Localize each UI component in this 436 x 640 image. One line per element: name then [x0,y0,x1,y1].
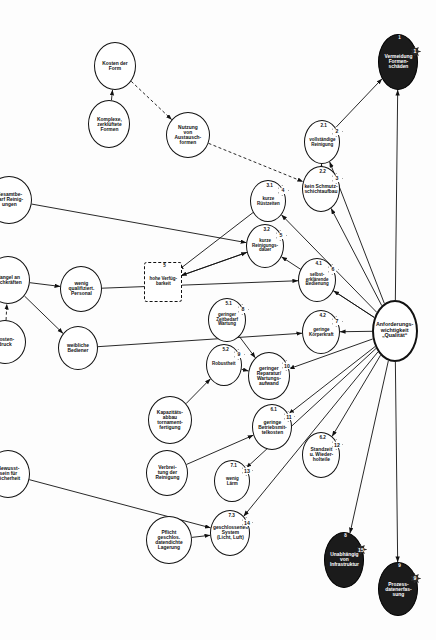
node-verbr: Verbrei- tung der Reinigung [146,450,188,496]
node-label-n71: wenig Lärm [226,476,239,485]
rank-badge-n71: 13 [242,465,253,476]
node-n1: 1Vermeidung Formen- schäden [378,34,418,90]
rank-badge-n22: 3 [332,173,343,184]
edge-mangel-to-weib [24,296,63,333]
rank-badge-n41: 6 [328,264,339,275]
node-label-weib: weibliche Bediener [67,343,89,353]
node-label-n5: hohe Verfüg- barkeit [149,277,177,286]
node-nutz: Nutzung von Austausch- formen [166,112,210,158]
node-index-n31: 3.1 [266,184,272,189]
node-label-kostd: Kosten- druck [0,337,14,347]
rank-badge-n9: 9 [410,573,421,584]
rank-badge-n1: 1 [410,46,421,57]
edge-root-to-n1 [395,90,397,300]
edge-root-to-n8 [350,361,388,534]
edge-weib-to-n42 [98,333,302,346]
rank-value: 5 [280,232,283,238]
rank-value: 9 [414,575,417,581]
edge-kapa-to-n52 [186,379,210,404]
edge-n31-to-n5 [178,213,253,271]
node-label-n22: kein Schmutz- schichtaufbau [304,184,337,194]
rank-badge-n61: 11 [284,411,295,422]
rank-value: 8 [242,306,245,312]
rank-value: 11 [287,413,292,419]
node-label-bewsi: Bewusst- sein für Sicherheit [0,466,20,481]
edge-wenigq-to-n41 [102,281,298,288]
node-label-n42: geringe Körperkraft [309,327,334,336]
rank-badge-n42: 7 [332,316,343,327]
node-label-n41: selbst- erklärende Bedienung [305,273,328,287]
node-index-n42: 4.2 [319,314,325,319]
node-label-n21: vollständige Reinigung [309,137,335,146]
edge-gesamt-to-n32 [32,204,247,243]
edge-kostd-to-mangel [6,304,7,320]
edge-n21-to-n1 [336,79,382,128]
rank-badge-n8: 15 [356,544,367,555]
edge-mangel-to-wenigq [30,283,60,287]
node-label-n61: geringe Betriebsmit- telkosten [258,419,287,434]
rank-badge-n21: 2 [332,126,343,137]
node-label-kompl: Komplexe, zerklüftete Formen [97,116,122,131]
node-kform: Kosten der Form [94,42,136,90]
node-kostd: Kosten- druck [0,320,26,364]
node-index-n62: 6.2 [319,436,325,441]
node-index-n8: 8 [344,534,347,539]
rank-value: 13 [245,468,251,474]
node-label-n51: geringer Zeitbedarf Wartung [216,313,238,327]
edge-root-to-n61 [289,347,376,415]
edge-nutz-to-n22 [209,143,303,181]
edge-root-to-n41 [334,291,375,318]
node-label-n10: geringer Reparatur/ Wartungs- aufwand [257,366,281,386]
node-index-n9: 9 [398,564,401,569]
node-index-n32: 3.2 [263,228,269,233]
node-index-n73: 7.3 [228,514,234,519]
node-label-kform: Kosten der Form [102,61,128,71]
rank-badge-n51: 8 [238,304,249,315]
rank-value: 2 [336,128,339,134]
node-wenigq: wenig qualifiziert. Personal [60,266,102,312]
rank-badge-n73: 14 [242,517,253,528]
edge-root-to-n9 [395,362,397,562]
rank-value: 9 [238,351,241,357]
edge-root-to-n62 [332,355,380,436]
node-index-n61: 6.1 [270,408,276,413]
node-n9: 9Prozess- datenerfas- sung [378,562,418,616]
node-index-n41: 4.1 [315,262,321,267]
edge-verbr-to-n61 [186,435,253,464]
node-mangel: Mangel an Fachkräften [0,256,30,304]
node-n5: 5hohe Verfüg- barkeit [144,262,182,302]
rank-badge-n31: 4 [278,185,289,196]
node-label-mangel: Mangel an Fachkräften [0,275,22,285]
node-index-n21: 2.1 [320,124,326,129]
node-n8: 8Unabhängig von Infrastruktur [324,532,364,588]
diagram-page: Anforderungs- wichtigkeit „Qualität“1Ver… [0,0,436,640]
node-kompl: Komplexe, zerklüftete Formen [88,100,130,148]
edge-kform-to-nutz [131,81,171,119]
node-label-kapa: Kapazitäts- abbau tornament- fertigung [157,410,183,430]
rank-value: 15 [359,547,365,553]
rank-badge-n10: 10 [282,360,293,371]
rank-badge-n52: 9 [234,349,245,360]
rank-value: 7 [336,318,339,324]
rank-value: 1 [414,48,417,54]
node-label-n31: kurze Rüstzeiten [257,196,280,205]
diagram-canvas: Anforderungs- wichtigkeit „Qualität“1Ver… [0,0,436,640]
node-label-verbr: Verbrei- tung der Reinigung [155,465,179,480]
node-index-n71: 7.1 [230,464,236,469]
node-index-n1: 1 [398,36,401,41]
node-label-n9: Prozess- datenerfas- sung [385,581,411,596]
rank-value: 10 [285,363,291,369]
node-label-wenigq: wenig qualifiziert. Personal [68,281,94,296]
node-pfl: Pflicht geschlos. datendichte Lagerung [146,516,192,564]
edge-n5-to-n32 [181,252,247,275]
node-label-n8: Unabhängig von Infrastruktur [329,552,358,567]
edge-pfl-to-n73 [192,535,210,537]
rank-value: 4 [282,187,285,193]
node-label-gesamt: Gesamtbe- darf Reinig- ungen [0,192,23,207]
node-kapa: Kapazitäts- abbau tornament- fertigung [148,396,192,444]
rank-value: 12 [335,442,341,448]
node-label-pfl: Pflicht geschlos. datendichte Lagerung [155,530,182,550]
node-index-n5: 5 [163,264,166,269]
node-root: Anforderungs- wichtigkeit „Qualität“ [372,300,418,362]
node-index-n51: 5.1 [225,302,231,307]
